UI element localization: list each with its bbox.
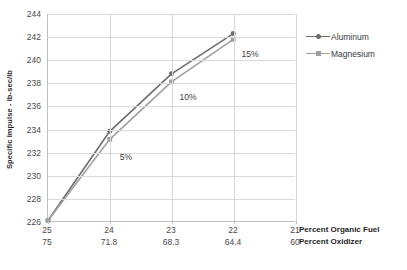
legend-marker-icon <box>306 48 330 59</box>
data-annotation: 10% <box>179 92 196 102</box>
x-axis-tick-label-organic-fuel: 23 <box>163 224 180 236</box>
y-axis-tick-label: 234 <box>27 125 41 135</box>
x-axis-tick-label-oxidizer: 71.8 <box>101 236 118 248</box>
x-axis-label-column: 2575 <box>42 224 51 248</box>
x-axis-tick-label-oxidizer: 75 <box>42 236 51 248</box>
y-axis-tick-label: 236 <box>27 101 41 111</box>
vertical-gridline <box>296 14 297 221</box>
vertical-gridline <box>172 14 173 221</box>
y-axis-tick-label: 226 <box>27 217 41 227</box>
y-axis-tick-label: 228 <box>27 194 41 204</box>
y-axis-tick-label: 232 <box>27 148 41 158</box>
y-axis-title: Specific Impulse - lb-sec/lb <box>0 0 18 240</box>
x-axis-tick-labels: 25752471.82368.32264.42160 <box>47 224 295 252</box>
legend-item-magnesium[interactable]: Magnesium <box>306 45 406 62</box>
chart-container: Specific Impulse - lb-sec/lb 22622823023… <box>0 0 407 270</box>
x-axis-label-column: 2368.3 <box>163 224 180 248</box>
x-axis-tick-label-oxidizer: 68.3 <box>163 236 180 248</box>
x-axis-tick-label-oxidizer: 64.4 <box>225 236 242 248</box>
x-axis-label-column: 2264.4 <box>225 224 242 248</box>
legend-item-label: Aluminum <box>330 32 369 42</box>
plot-area: 5%10%15% <box>47 14 295 222</box>
x-axis-title-oxidizer: Percent Oxidizer <box>299 236 407 248</box>
vertical-gridline <box>234 14 235 221</box>
legend-marker-icon <box>306 31 330 42</box>
x-axis-label-column: 2471.8 <box>101 224 118 248</box>
x-axis-tick-label-organic-fuel: 25 <box>42 224 51 236</box>
y-axis-tick-labels: 226228230232234236238240242244 <box>18 14 44 222</box>
x-axis-titles: Percent Organic Fuel Percent Oxidizer <box>299 224 407 248</box>
x-axis-tick-label-organic-fuel: 24 <box>101 224 118 236</box>
data-annotation: 15% <box>241 49 258 59</box>
x-axis-tick-label-organic-fuel: 22 <box>225 224 242 236</box>
y-axis-tick-label: 240 <box>27 55 41 65</box>
vertical-gridline <box>110 14 111 221</box>
y-axis-tick-label: 230 <box>27 171 41 181</box>
series-line-aluminum <box>48 34 233 221</box>
chart-legend: AluminumMagnesium <box>306 28 406 62</box>
legend-item-label: Magnesium <box>330 49 375 59</box>
y-axis-tick-label: 244 <box>27 9 41 19</box>
data-annotation: 5% <box>120 152 132 162</box>
x-axis-title-organic-fuel: Percent Organic Fuel <box>299 224 407 236</box>
legend-item-aluminum[interactable]: Aluminum <box>306 28 406 45</box>
y-axis-tick-label: 238 <box>27 78 41 88</box>
y-axis-title-text: Specific Impulse - lb-sec/lb <box>5 70 14 169</box>
y-axis-tick-label: 242 <box>27 32 41 42</box>
